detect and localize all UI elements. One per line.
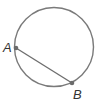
circle-chord-diagram: A B <box>0 0 96 103</box>
diagram-canvas: A B <box>0 0 96 103</box>
point-b-dot <box>70 81 75 86</box>
point-a-label: A <box>2 40 12 55</box>
point-b-label: B <box>73 87 82 102</box>
point-a-dot <box>14 46 19 51</box>
circle <box>15 8 94 87</box>
chord-ab <box>16 48 72 83</box>
